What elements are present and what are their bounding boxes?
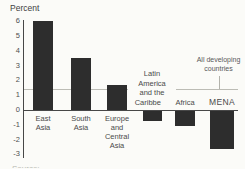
plot-area: 6543210-1-2-3All developingcountriesEast… — [0, 0, 245, 169]
y-tick-label: 1 — [2, 91, 20, 99]
y-tick-label: -2 — [2, 136, 20, 144]
bar-label-line: America — [128, 79, 176, 89]
bar — [71, 58, 91, 110]
y-tick-label: -1 — [2, 121, 20, 129]
y-tick-label: 3 — [2, 62, 20, 70]
bar-label-line: Europe — [93, 114, 141, 123]
y-tick-label: 4 — [2, 47, 20, 55]
bar-label-line: and — [93, 123, 141, 132]
y-tick-label: 0 — [2, 106, 20, 114]
reference-annotation-line: All developing — [190, 56, 245, 65]
source-line-cutoff: Source: — [12, 164, 232, 168]
reference-annotation-line: countries — [190, 65, 245, 74]
bar — [33, 21, 53, 110]
y-tick-label: 6 — [2, 17, 20, 25]
bar-label-line: Latin — [128, 69, 176, 79]
bar-label: EuropeandCentralAsia — [93, 114, 141, 150]
bar — [107, 85, 127, 110]
x-axis-zero-line — [23, 110, 238, 111]
reference-annotation: All developingcountries — [190, 56, 245, 73]
annotation-pointer-line — [219, 76, 220, 89]
y-tick-label: 2 — [2, 76, 20, 84]
y-tick-label: 5 — [2, 32, 20, 40]
bar-label-line: Asia — [93, 141, 141, 150]
bar-label: MENA — [198, 98, 245, 108]
bar-label-line: and the — [128, 88, 176, 98]
bar-chart: Percent Source: 6543210-1-2-3All develop… — [0, 0, 245, 169]
bar-label-line: MENA — [198, 98, 245, 108]
bar — [210, 111, 234, 149]
y-tick-label: -3 — [2, 150, 20, 158]
bar — [143, 111, 162, 121]
bar — [175, 111, 195, 126]
bar-label-line: Central — [93, 132, 141, 141]
